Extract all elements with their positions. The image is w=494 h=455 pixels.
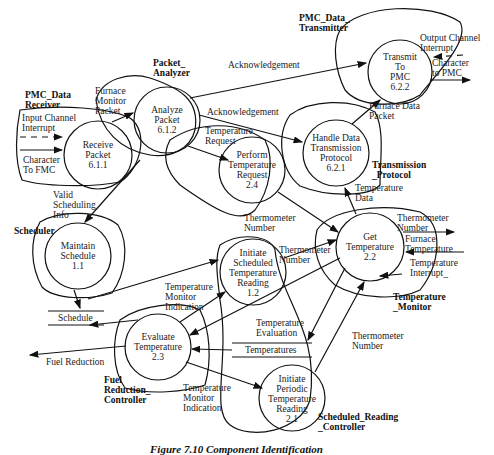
flow-line: Input Channel [22, 113, 76, 123]
flow-thermometer-number-a: Thermometer Number [244, 213, 296, 233]
component-transmission-protocol: Transmission _Protocol [372, 160, 426, 180]
process-line: Handle Data [304, 133, 368, 143]
component-line: PMC_Data [25, 90, 71, 100]
figure-caption: Figure 7.10 Component Identification [150, 443, 323, 455]
component-packet-analyzer: Packet_ Analyzer [153, 58, 190, 78]
process-line: Packet [70, 150, 126, 160]
flow-line: to PMC [432, 68, 469, 78]
flow-furnace-monitor-packet: Furnace Monitor Packet [95, 86, 126, 116]
component-line: Receiver [25, 100, 71, 110]
component-line: _Protocol [372, 170, 426, 180]
flow-temperature-monitor-indication-b: Temperature Monitor Indication [183, 383, 231, 413]
component-temperature-monitor: Temperature _Monitor [393, 292, 446, 312]
flow-line: Character [432, 58, 469, 68]
flow-thermometer-number-d: Thermometer Number [352, 331, 404, 351]
flow-line: To FMC [23, 165, 60, 175]
component-line: Temperature [393, 292, 446, 302]
flow-line: Interrupt [420, 43, 480, 53]
process-line: Reading [221, 278, 285, 288]
process-line: 6.2.1 [304, 163, 368, 173]
flow-line: Temperature [410, 258, 458, 268]
flow-temperature-monitor-indication-a: Temperature Monitor Indication [165, 282, 213, 312]
flow-line: Interrupt [22, 123, 76, 133]
flow-line: Valid [53, 190, 96, 200]
component-line: PMC_Data_ [299, 13, 350, 23]
flow-line: Indication [183, 403, 231, 413]
process-initiate-periodic-reading: Initiate Periodic Temperature Reading 2.… [260, 374, 324, 424]
flow-line: Indication [165, 302, 213, 312]
component-line: Controller [104, 395, 150, 405]
flow-line: Number [244, 223, 296, 233]
process-evaluate-temperature: Evaluate Temperature 2.3 [126, 332, 190, 362]
flow-line: Furnace [95, 86, 126, 96]
process-line: 1.1 [50, 261, 106, 271]
flow-line: Furnace Data [369, 101, 420, 111]
process-receive-packet: Receive Packet 6.1.1 [70, 140, 126, 170]
process-transmit-to-pmc: Transmit To PMC 6.2.2 [372, 52, 428, 92]
process-line: Temperature [221, 268, 285, 278]
process-line: Schedule [50, 251, 106, 261]
process-line: Scheduled [221, 258, 285, 268]
component-line: Scheduler [14, 226, 55, 236]
process-line: Periodic [260, 384, 324, 394]
flow-line: Monitor [183, 393, 231, 403]
flow-line: Number [352, 341, 404, 351]
process-handle-data-transmission: Handle Data Transmission Protocol 6.2.1 [304, 133, 368, 173]
process-maintain-schedule: Maintain Schedule 1.1 [50, 241, 106, 271]
process-line: PMC [372, 72, 428, 82]
process-line: Receive [70, 140, 126, 150]
process-line: Packet [139, 115, 195, 125]
flow-character-to-pmc: Character to PMC [432, 58, 469, 78]
flow-fuel-reduction: Fuel Reduction [46, 357, 104, 367]
process-line: 6.1.1 [70, 160, 126, 170]
process-line: Evaluate [126, 332, 190, 342]
flow-line: Temperature [256, 318, 304, 328]
component-line: Transmission [372, 160, 426, 170]
process-line: 2.4 [222, 180, 282, 190]
process-line: Maintain [50, 241, 106, 251]
flow-line: Packet [369, 111, 420, 121]
process-line: Protocol [304, 153, 368, 163]
flow-valid-scheduling-info: Valid Scheduling Info [53, 190, 96, 220]
flow-line: Data [355, 193, 403, 203]
component-fuel-reduction-controller: Fuel Reduction_ Controller [104, 375, 150, 405]
process-line: 1.2 [221, 288, 285, 298]
flow-line: Monitor [165, 292, 213, 302]
component-line: Reduction_ [104, 385, 150, 395]
flow-thermometer-number-c: Thermometer Number [397, 213, 449, 233]
flow-acknowledgement-mid: Acknowledgement [207, 107, 279, 117]
process-line: Perform [222, 150, 282, 160]
process-line: Temperature [222, 160, 282, 170]
process-line: 2.3 [126, 352, 190, 362]
flow-line: Temperature [405, 244, 453, 254]
flow-line: Info [53, 210, 96, 220]
component-scheduler: Scheduler [14, 226, 55, 236]
flow-line: Temperature [183, 383, 231, 393]
flow-line: Packet [95, 106, 126, 116]
component-line: Scheduled_Reading [318, 412, 398, 422]
process-line: Transmit [372, 52, 428, 62]
flow-temperature-data: Temperature Data [355, 183, 403, 203]
flow-temperature-interrupt: Temperature Interrupt_ [410, 258, 458, 278]
process-line: Temperature [126, 342, 190, 352]
flow-line: Interrupt_ [410, 268, 458, 278]
component-line: _Monitor [393, 302, 446, 312]
flow-temperature-request: Temperature Request [205, 126, 253, 146]
process-initiate-scheduled-reading: Initiate Scheduled Temperature Reading 1… [221, 248, 285, 298]
process-line: Analyze [139, 105, 195, 115]
flow-line: Character [23, 155, 60, 165]
component-line: Transmitter [299, 23, 350, 33]
flow-output-channel-interrupt: Output Channel Interrupt [420, 33, 480, 53]
process-line: Request [222, 170, 282, 180]
flow-line: Output Channel [420, 33, 480, 43]
process-line: 6.2.2 [372, 82, 428, 92]
component-pmc-data-transmitter: PMC_Data_ Transmitter [299, 13, 350, 33]
store-schedule: Schedule [58, 313, 93, 323]
component-line: Fuel [104, 375, 150, 385]
component-line: Analyzer [153, 68, 190, 78]
process-perform-temperature-request: Perform Temperature Request 2.4 [222, 150, 282, 190]
process-line: Get [338, 232, 402, 242]
flow-input-channel-interrupt: Input Channel Interrupt [22, 113, 76, 133]
process-line: Transmission [304, 143, 368, 153]
process-line: 6.1.2 [139, 125, 195, 135]
